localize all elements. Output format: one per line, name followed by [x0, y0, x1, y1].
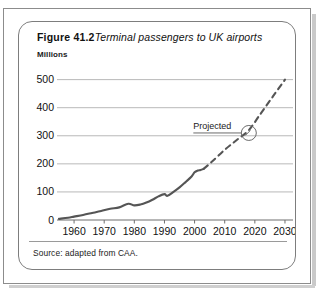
projected-marker-circle [241, 125, 256, 140]
page-shadow-right [312, 14, 316, 286]
x-tick-label: 1990 [153, 225, 177, 237]
source-separator [29, 241, 287, 242]
series-line-actual [59, 169, 204, 219]
y-tick-label: 500 [36, 73, 54, 85]
y-tick-label: 100 [36, 185, 54, 197]
y-tick-label: 300 [36, 129, 54, 141]
gridlines-group [57, 80, 293, 192]
projected-annotation-label: Projected [193, 121, 231, 131]
y-tick-label: 400 [36, 101, 54, 113]
x-tick-label: 1960 [62, 225, 86, 237]
projected-annotation-group: Projected [193, 121, 256, 140]
figure-box: Figure 41.2Terminal passengers to UK air… [18, 21, 296, 270]
figure-screenshot: Figure 41.2Terminal passengers to UK air… [0, 0, 321, 296]
x-tick-label: 2010 [213, 225, 237, 237]
source-note: Source: adapted from CAA. [33, 248, 138, 258]
chart-svg: 0100200300400500 19601970198019902000201… [19, 22, 296, 270]
x-tick-label: 2020 [243, 225, 267, 237]
page-shadow-bottom [9, 285, 315, 288]
x-tick-label: 1980 [123, 225, 147, 237]
x-tick-label: 2030 [273, 225, 296, 237]
y-tick-label: 200 [36, 157, 54, 169]
y-tick-label: 0 [48, 214, 54, 226]
x-tick-label: 2000 [183, 225, 207, 237]
x-axis-group [57, 220, 293, 224]
chart-plot-area: 0100200300400500 19601970198019902000201… [19, 22, 296, 270]
y-tick-labels-group: 0100200300400500 [36, 73, 54, 225]
x-tick-label: 1970 [93, 225, 117, 237]
x-tick-labels-group: 19601970198019902000201020202030 [62, 225, 296, 237]
